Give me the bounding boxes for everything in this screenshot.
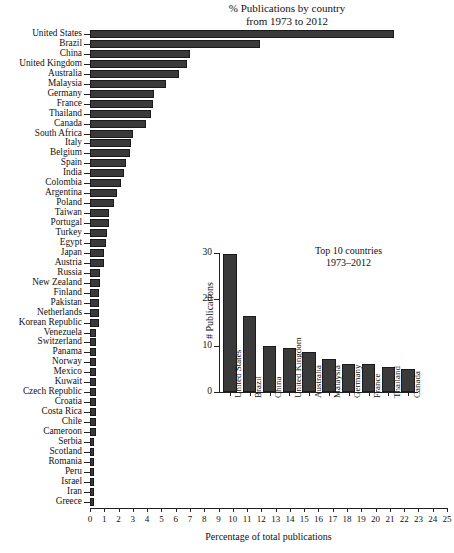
bar xyxy=(90,289,99,297)
bar xyxy=(90,90,154,98)
inset-chart-title-line2: 1973–2012 xyxy=(246,257,451,269)
inset-x-axis-tick-label: Canada xyxy=(412,371,422,398)
bar xyxy=(90,80,166,88)
inset-y-axis-tick-label: 0 xyxy=(196,386,212,396)
inset-y-axis-tick-label: 30 xyxy=(196,247,212,257)
bar xyxy=(90,458,94,466)
x-axis-tick-label: 25 xyxy=(437,514,454,524)
inset-chart-title-line1: Top 10 countries xyxy=(246,245,451,257)
bar xyxy=(90,229,107,237)
bar xyxy=(90,239,106,247)
inset-y-axis-line xyxy=(219,253,220,392)
bar xyxy=(90,259,104,267)
inset-bar-chart: Top 10 countries 1973–2012 # Publication… xyxy=(186,245,454,510)
inset-x-axis-tick xyxy=(408,392,409,396)
x-axis-tick xyxy=(104,508,105,512)
inset-y-axis-tick xyxy=(214,392,219,393)
x-axis-tick xyxy=(133,508,134,512)
inset-x-axis-tick-label: United States xyxy=(233,350,243,398)
inset-x-axis-tick-label: Germany xyxy=(352,365,362,399)
bar xyxy=(90,199,114,207)
bar xyxy=(90,309,99,317)
main-chart-title: % Publications by country from 1973 to 2… xyxy=(0,2,454,28)
bar xyxy=(90,299,99,307)
inset-x-axis-tick-label: Thailand xyxy=(392,366,402,398)
inset-chart-title: Top 10 countries 1973–2012 xyxy=(246,245,451,269)
inset-x-axis-tick xyxy=(349,392,350,396)
bar xyxy=(90,468,94,476)
bar xyxy=(90,139,131,147)
bar xyxy=(90,249,104,257)
inset-x-axis-tick xyxy=(250,392,251,396)
inset-x-axis-tick-label: Malaysia xyxy=(332,365,342,398)
bar xyxy=(90,388,96,396)
category-label: Greece xyxy=(56,496,82,507)
bar xyxy=(90,498,94,506)
bar xyxy=(90,169,124,177)
inset-x-axis-tick xyxy=(369,392,370,396)
inset-x-axis-tick xyxy=(329,392,330,396)
inset-x-axis-tick xyxy=(230,392,231,396)
main-x-axis-title: Percentage of total publications xyxy=(90,531,447,542)
inset-x-axis-tick xyxy=(388,392,389,396)
inset-x-axis-tick-label: Australia xyxy=(313,365,323,398)
inset-x-axis-tick xyxy=(309,392,310,396)
inset-x-axis-tick xyxy=(270,392,271,396)
inset-y-axis-tick xyxy=(214,299,219,300)
bar xyxy=(90,40,260,48)
x-axis-tick xyxy=(119,508,120,512)
x-axis-tick xyxy=(176,508,177,512)
bar xyxy=(90,358,96,366)
bar xyxy=(90,189,117,197)
bar xyxy=(90,120,146,128)
bar xyxy=(90,50,190,58)
bar xyxy=(90,209,109,217)
bar xyxy=(90,418,96,426)
bar xyxy=(90,100,153,108)
bar xyxy=(90,60,187,68)
inset-x-axis-tick-label: China xyxy=(273,377,283,399)
bar xyxy=(90,70,179,78)
bar xyxy=(90,159,126,167)
bar xyxy=(90,438,94,446)
bar xyxy=(90,110,151,118)
x-axis-tick xyxy=(90,508,91,512)
bar xyxy=(90,478,94,486)
bar xyxy=(90,488,94,496)
figure-root: % Publications by country from 1973 to 2… xyxy=(0,0,454,553)
bar xyxy=(90,378,96,386)
inset-y-axis-tick xyxy=(214,253,219,254)
bar xyxy=(90,368,96,376)
bar xyxy=(90,179,121,187)
bar xyxy=(90,398,96,406)
main-chart-title-line2: from 1973 to 2012 xyxy=(120,15,454,28)
bar xyxy=(90,149,130,157)
bar xyxy=(90,428,96,436)
inset-x-axis-tick xyxy=(289,392,290,396)
bar xyxy=(90,269,100,277)
bar xyxy=(90,329,96,337)
inset-y-axis-tick xyxy=(214,346,219,347)
x-axis-tick xyxy=(161,508,162,512)
bar xyxy=(90,348,96,356)
bar xyxy=(90,219,109,227)
bar xyxy=(90,338,96,346)
bar xyxy=(90,448,94,456)
x-axis-tick xyxy=(147,508,148,512)
inset-y-axis-tick-label: 10 xyxy=(196,340,212,350)
inset-x-axis-tick-label: United Kingdom xyxy=(293,337,303,398)
inset-y-axis-tick-label: 20 xyxy=(196,293,212,303)
bar xyxy=(90,319,99,327)
inset-x-axis-tick-label: Brazil xyxy=(253,376,263,398)
bar xyxy=(90,130,133,138)
inset-x-axis-tick-label: France xyxy=(372,374,382,399)
main-chart-title-line1: % Publications by country xyxy=(120,2,454,15)
bar xyxy=(90,408,96,416)
bar xyxy=(90,30,394,38)
bar xyxy=(90,279,100,287)
